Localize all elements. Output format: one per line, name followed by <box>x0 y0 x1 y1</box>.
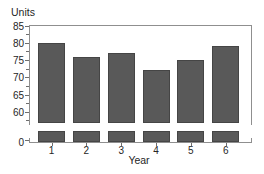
bar-chart: Units Year 8580757065600123456 <box>0 0 264 174</box>
x-tick-label-6: 6 <box>216 145 236 156</box>
bar-year-4 <box>143 70 170 123</box>
bar-year-5 <box>177 60 204 123</box>
plot-top-border <box>29 25 252 26</box>
x-tick-label-4: 4 <box>146 145 166 156</box>
y-axis-title: Units <box>11 6 35 18</box>
bar-year-6-base-stub <box>212 131 239 143</box>
y-tick-label-80: 80 <box>4 38 24 49</box>
y-tick-label-75: 75 <box>4 55 24 66</box>
bar-year-1 <box>38 43 65 123</box>
y-minor-tick-62.5 <box>26 103 29 104</box>
x-tick-label-1: 1 <box>42 145 62 156</box>
y-minor-tick-82.5 <box>26 34 29 35</box>
y-major-tick-0 <box>25 140 29 141</box>
x-tick-label-2: 2 <box>76 145 96 156</box>
y-major-tick-85 <box>25 26 29 27</box>
bar-year-2-base-stub <box>73 131 100 143</box>
y-tick-label-60: 60 <box>4 107 24 118</box>
y-tick-label-85: 85 <box>4 21 24 32</box>
y-minor-tick-77.5 <box>26 51 29 52</box>
x-tick-label-3: 3 <box>111 145 131 156</box>
y-major-tick-75 <box>25 60 29 61</box>
y-major-tick-65 <box>25 95 29 96</box>
y-major-tick-80 <box>25 43 29 44</box>
y-major-tick-60 <box>25 112 29 113</box>
y-axis-upper-segment <box>29 25 30 125</box>
y-tick-label-70: 70 <box>4 72 24 83</box>
x-tick-label-5: 5 <box>181 145 201 156</box>
y-tick-label-0: 0 <box>4 137 24 148</box>
bar-year-3-base-stub <box>108 131 135 143</box>
bar-year-3 <box>108 53 135 123</box>
y-minor-tick-72.5 <box>26 69 29 70</box>
right-border-lower-segment <box>251 138 252 143</box>
y-major-tick-70 <box>25 77 29 78</box>
x-axis-line <box>29 142 252 143</box>
bar-year-5-base-stub <box>177 131 204 143</box>
y-tick-label-65: 65 <box>4 90 24 101</box>
y-minor-tick-57.5 <box>26 120 29 121</box>
bar-year-2 <box>73 57 100 123</box>
y-minor-tick-67.5 <box>26 86 29 87</box>
y-axis-lower-segment <box>29 138 30 143</box>
bar-year-4-base-stub <box>143 131 170 143</box>
bar-year-6 <box>212 46 239 123</box>
bar-year-1-base-stub <box>38 131 65 143</box>
right-border-upper-segment <box>251 25 252 125</box>
